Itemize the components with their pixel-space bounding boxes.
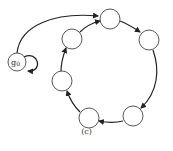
- node-1: [100, 9, 120, 29]
- edge-n6-to-n1: [80, 21, 100, 32]
- node-5: [52, 71, 72, 91]
- edge-n5-to-n6: [61, 48, 66, 71]
- edge-g0-to-n1: [17, 15, 98, 53]
- figure-caption: (c): [0, 127, 173, 136]
- node-6: [62, 29, 82, 49]
- edge-n3-to-n4: [99, 121, 123, 123]
- node-3: [123, 106, 143, 126]
- edge-n1-to-n2: [120, 21, 140, 32]
- edge-n2-to-n3: [141, 50, 157, 108]
- node-2: [139, 30, 159, 50]
- edge-n4-to-n5: [67, 91, 80, 112]
- node-g0-label: g0: [11, 58, 20, 67]
- node-4: [79, 108, 99, 128]
